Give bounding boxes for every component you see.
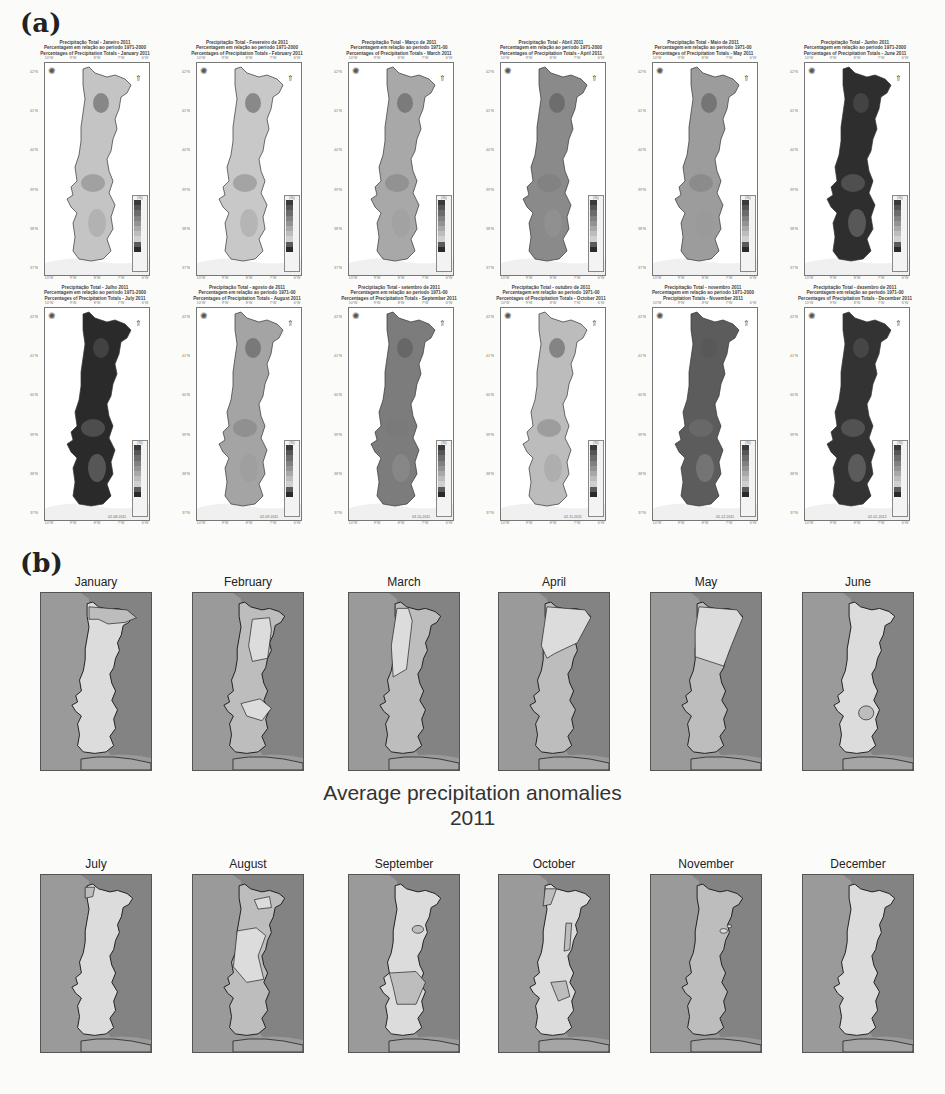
portugal-anomaly-map — [349, 593, 459, 770]
north-arrow-icon: ⇑ — [287, 74, 294, 83]
compass-icon: ✺ — [48, 311, 56, 321]
anomaly-map-2: February — [192, 575, 304, 765]
north-arrow-icon: ⇑ — [743, 319, 750, 328]
map-title: Precipitação Total - dezembro de 2011 Pe… — [780, 285, 930, 301]
anomaly-map-frame — [498, 874, 610, 1053]
precip-map-2: Precipitação Total - Fevereiro de 2011 P… — [172, 40, 322, 285]
north-arrow-icon: ⇑ — [439, 74, 446, 83]
lat-ticks: 42°N41°N40°N39°N38°N37°N — [790, 315, 798, 515]
portugal-anomaly-map — [349, 875, 459, 1052]
lon-ticks-bottom: 10°W9°W8°W7°W6°W — [804, 521, 910, 527]
portugal-anomaly-map — [499, 593, 609, 770]
anomaly-map-frame — [650, 592, 762, 771]
anomaly-map-frame — [498, 592, 610, 771]
precip-map-6: Precipitação Total - Junho 2011 Percenta… — [780, 40, 930, 285]
north-arrow-icon: ⇑ — [591, 74, 598, 83]
portugal-anomaly-map — [803, 875, 913, 1052]
lon-ticks-bottom: 10°W9°W8°W7°W6°W — [348, 276, 454, 282]
anomaly-map-frame — [192, 874, 304, 1053]
portugal-anomaly-map — [651, 875, 761, 1052]
month-title: October — [498, 857, 610, 871]
map-date: 02-09-2011 — [260, 515, 278, 519]
lat-ticks: 42°N41°N40°N39°N38°N37°N — [182, 70, 190, 270]
anomaly-map-frame — [802, 874, 914, 1053]
precip-map-11: Precipitação Total - novembro 2011 Perce… — [628, 285, 778, 530]
portugal-anomaly-map — [499, 875, 609, 1052]
lat-ticks: 42°N41°N40°N39°N38°N37°N — [182, 315, 190, 515]
map-title: Precipitação Total - Maio de 2011 Percen… — [628, 40, 778, 56]
lon-ticks-bottom: 10°W9°W8°W7°W6°W — [804, 276, 910, 282]
portugal-anomaly-map — [651, 593, 761, 770]
anomaly-map-4: April — [498, 575, 610, 765]
lat-ticks: 42°N41°N40°N39°N38°N37°N — [30, 70, 38, 270]
map-title: Precipitação Total - Janeiro 2011 Percen… — [20, 40, 170, 56]
color-legend: (%) — [132, 440, 148, 517]
lon-ticks-bottom: 10°W9°W8°W7°W6°W — [348, 521, 454, 527]
map-title: Precipitação Total - Junho 2011 Percenta… — [780, 40, 930, 56]
anomaly-map-3: March — [348, 575, 460, 765]
north-arrow-icon: ⇑ — [135, 74, 142, 83]
anomaly-map-5: May — [650, 575, 762, 765]
map-title: Precipitação Total - Abril 2011 Percenta… — [476, 40, 626, 56]
month-title: July — [40, 857, 152, 871]
month-title: September — [348, 857, 460, 871]
map-title: Precipitação Total - Março de 2011 Perce… — [324, 40, 474, 56]
anomaly-map-frame — [40, 592, 152, 771]
month-title: December — [802, 857, 914, 871]
panel-a-label: (a) — [20, 8, 61, 38]
color-legend: (%) — [892, 440, 908, 517]
lon-ticks-bottom: 10°W9°W8°W7°W6°W — [652, 521, 758, 527]
color-legend: (%) — [588, 195, 604, 272]
north-arrow-icon: ⇑ — [743, 74, 750, 83]
anomaly-map-frame — [348, 592, 460, 771]
north-arrow-icon: ⇑ — [895, 319, 902, 328]
anomaly-map-frame — [802, 592, 914, 771]
lon-ticks-bottom: 10°W9°W8°W7°W6°W — [500, 521, 606, 527]
lon-ticks-bottom: 10°W9°W8°W7°W6°W — [500, 276, 606, 282]
portugal-anomaly-map — [803, 593, 913, 770]
portugal-anomaly-map — [41, 593, 151, 770]
north-arrow-icon: ⇑ — [895, 74, 902, 83]
compass-icon: ✺ — [352, 311, 360, 321]
anomaly-map-10: October — [498, 857, 610, 1047]
compass-icon: ✺ — [352, 66, 360, 76]
map-date: 02-08-2011 — [108, 515, 126, 519]
month-title: April — [498, 575, 610, 589]
lat-ticks: 42°N41°N40°N39°N38°N37°N — [638, 70, 646, 270]
month-title: June — [802, 575, 914, 589]
anomaly-map-frame — [348, 874, 460, 1053]
month-title: August — [192, 857, 304, 871]
map-title: Precipitação Total - Fevereiro de 2011 P… — [172, 40, 322, 56]
lon-ticks-bottom: 10°W9°W8°W7°W6°W — [44, 521, 150, 527]
portugal-anomaly-map — [41, 875, 151, 1052]
portugal-anomaly-map — [193, 593, 303, 770]
anomaly-map-6: June — [802, 575, 914, 765]
compass-icon: ✺ — [504, 311, 512, 321]
color-legend: (%) — [284, 440, 300, 517]
color-legend: (%) — [740, 440, 756, 517]
precip-map-7: Precipitação Total - Julho 2011 Percenta… — [20, 285, 170, 530]
lat-ticks: 42°N41°N40°N39°N38°N37°N — [334, 70, 342, 270]
compass-icon: ✺ — [504, 66, 512, 76]
portugal-anomaly-map — [193, 875, 303, 1052]
map-date: 03-10-2011 — [412, 515, 430, 519]
map-title: Precipitação Total - agosto de 2011 Perc… — [172, 285, 322, 301]
month-title: March — [348, 575, 460, 589]
lat-ticks: 42°N41°N40°N39°N38°N37°N — [790, 70, 798, 270]
color-legend: (%) — [892, 195, 908, 272]
month-title: January — [40, 575, 152, 589]
anomaly-map-11: November — [650, 857, 762, 1047]
month-title: May — [650, 575, 762, 589]
lat-ticks: 42°N41°N40°N39°N38°N37°N — [334, 315, 342, 515]
anomaly-map-frame — [650, 874, 762, 1053]
lat-ticks: 42°N41°N40°N39°N38°N37°N — [486, 70, 494, 270]
anomaly-map-12: December — [802, 857, 914, 1047]
precip-map-10: Precipitação Total - outubro de 2011 Per… — [476, 285, 626, 530]
north-arrow-icon: ⇑ — [287, 319, 294, 328]
map-title: Precipitação Total - setembro de 2011 Pe… — [324, 285, 474, 301]
lon-ticks-bottom: 10°W9°W8°W7°W6°W — [652, 276, 758, 282]
compass-icon: ✺ — [200, 311, 208, 321]
color-legend: (%) — [132, 195, 148, 272]
compass-icon: ✺ — [808, 66, 816, 76]
map-title: Precipitação Total - Julho 2011 Percenta… — [20, 285, 170, 301]
